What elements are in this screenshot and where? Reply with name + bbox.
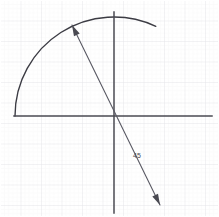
angle-measure-label: 45 — [133, 152, 141, 159]
arrowhead-end-icon — [152, 194, 160, 205]
drawing-layer: 45 — [0, 0, 219, 217]
circle-arc — [15, 17, 156, 116]
diameter-ray — [72, 25, 160, 205]
drawing-svg: 45 — [0, 0, 219, 217]
sketch-canvas: 45 — [0, 0, 219, 217]
arrowhead-start-icon — [72, 25, 80, 36]
